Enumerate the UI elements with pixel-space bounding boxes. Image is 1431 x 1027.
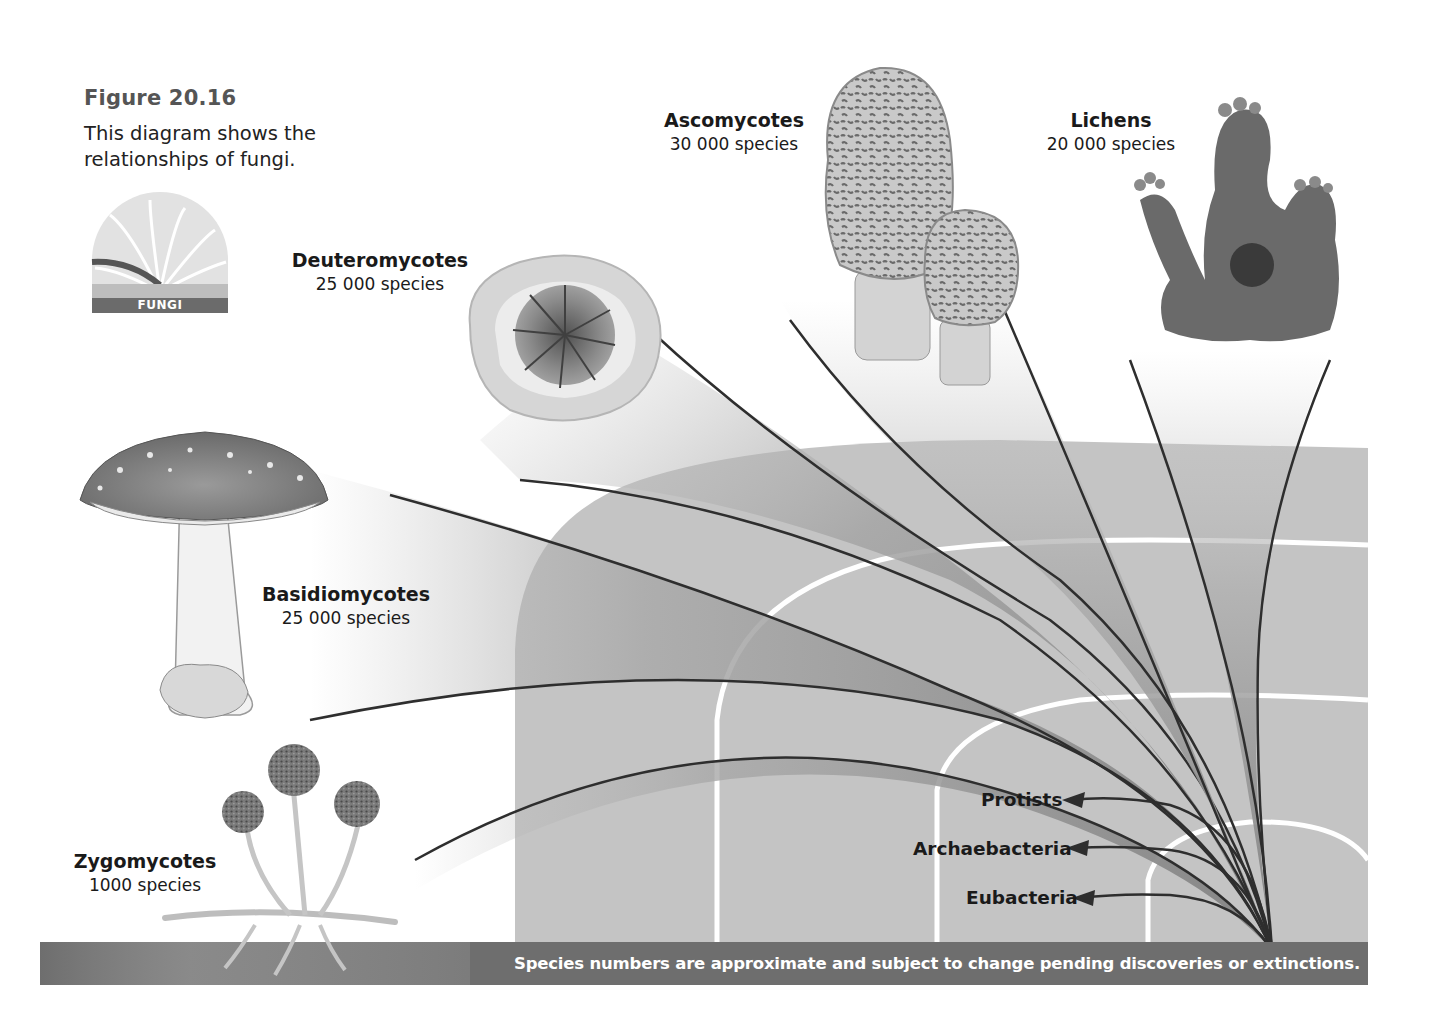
fungi-badge-label: FUNGI (92, 298, 228, 313)
group-name: Ascomycotes (652, 108, 816, 133)
morel-mushroom-icon (826, 68, 1018, 385)
footer-note: Species numbers are approximate and subj… (470, 954, 1360, 973)
outgroup-archaebacteria: Archaebacteria (913, 838, 1072, 859)
label-deuteromycotes: Deuteromycotes 25 000 species (282, 248, 478, 295)
figure-caption: This diagram shows the relationships of … (84, 95, 364, 173)
amanita-mushroom-icon (80, 432, 328, 718)
group-species: 1000 species (70, 874, 220, 896)
group-name: Zygomycotes (70, 849, 220, 874)
fungi-fan-icon (92, 192, 228, 298)
group-name: Basidiomycotes (256, 582, 436, 607)
outgroup-protists: Protists (981, 789, 1062, 810)
label-zygomycotes: Zygomycotes 1000 species (70, 849, 220, 896)
outgroup-eubacteria: Eubacteria (966, 887, 1078, 908)
group-name: Deuteromycotes (282, 248, 478, 273)
label-ascomycotes: Ascomycotes 30 000 species (652, 108, 816, 155)
group-species: 30 000 species (652, 133, 816, 155)
group-species: 25 000 species (256, 607, 436, 629)
group-name: Lichens (1036, 108, 1186, 133)
label-basidiomycotes: Basidiomycotes 25 000 species (256, 582, 436, 629)
group-species: 20 000 species (1036, 133, 1186, 155)
caption-line-1: This diagram shows the (84, 121, 364, 147)
label-lichens: Lichens 20 000 species (1036, 108, 1186, 155)
group-species: 25 000 species (282, 273, 478, 295)
deuteromycete-disc-icon (470, 255, 661, 420)
caption-line-2: relationships of fungi. (84, 147, 364, 173)
